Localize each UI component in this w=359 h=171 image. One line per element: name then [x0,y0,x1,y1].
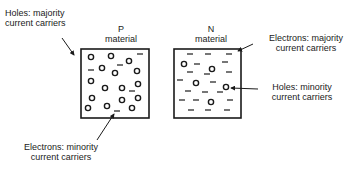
n-majority-label: Electrons: majority current carriers [258,33,354,53]
n-material-box [174,49,241,118]
hole-icon [119,85,124,90]
p-material-title: P material [96,24,146,44]
hole-icon [209,66,214,71]
p-title-line2: material [96,34,146,44]
hole-icon [85,105,90,110]
n-majority-line1: Electrons: majority [258,33,354,43]
p-majority-line2: current carriers [5,18,66,28]
hole-icon [88,54,93,59]
p-majority-label: Holes: majority current carriers [5,8,66,28]
n-minority-line2: current carriers [260,92,344,102]
p-minority-label: Electrons: minority current carriers [18,142,104,162]
arrow-n-majority [238,44,253,51]
arrow-p-majority [62,38,74,55]
hole-icon [89,95,94,100]
hole-icon [99,65,104,70]
hole-icon [129,105,134,110]
n-majority-line2: current carriers [258,43,354,53]
n-material-title: N material [186,24,236,44]
p-minority-line2: current carriers [18,152,104,162]
hole-icon [104,103,109,108]
n-minority-line1: Holes: minority [260,82,344,92]
hole-icon [108,53,113,58]
p-minority-line1: Electrons: minority [18,142,104,152]
hole-icon [119,97,124,102]
hole-icon [223,84,228,89]
hole-icon [88,78,93,83]
n-title-line2: material [186,34,236,44]
material-box-outline [174,49,241,118]
hole-icon [181,61,186,66]
hole-icon [112,70,117,75]
hole-icon [135,95,140,100]
hole-icon [102,85,107,90]
p-title-line1: P [96,24,146,34]
arrow-n-minority [231,88,258,89]
hole-icon [135,81,140,86]
p-majority-line1: Holes: majority [5,8,66,18]
n-title-line1: N [186,24,236,34]
hole-icon [193,80,198,85]
p-material-box [81,49,149,118]
hole-icon [134,68,139,73]
hole-icon [126,58,131,63]
n-minority-label: Holes: minority current carriers [260,82,344,102]
hole-icon [208,99,213,104]
